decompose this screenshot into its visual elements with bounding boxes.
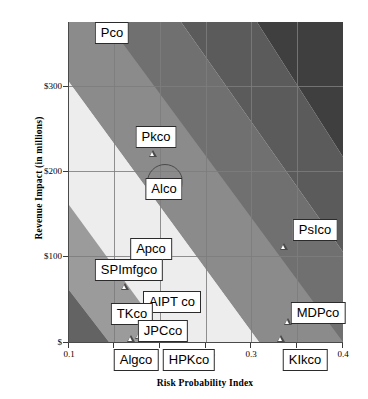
gridline-x-025 [206, 22, 207, 342]
x-axis-title: Risk Probability Index [68, 378, 342, 388]
callout-spimfgco[interactable]: SPImfgco [95, 259, 163, 281]
x-tick-label-01: 0.1 [63, 349, 74, 359]
gridlines [69, 22, 343, 342]
callout-pkco[interactable]: Pkco [136, 126, 177, 148]
scatter-chart: Revenue Impact (in millions) $300 $200 $… [0, 0, 368, 399]
y-tick-label-300: $300 [2, 81, 62, 91]
marker-spimfgco [121, 283, 129, 290]
x-tick-mark-01 [68, 343, 69, 348]
x-tick-mark-025 [205, 343, 206, 348]
callout-kikco[interactable]: KIkco [283, 349, 328, 371]
x-tick-mark-015 [113, 343, 114, 348]
callout-mdpco[interactable]: MDPco [291, 302, 346, 324]
gridline-x-035 [297, 22, 298, 342]
x-tick-label-04: 0.4 [337, 349, 348, 359]
callout-alco[interactable]: Alco [145, 178, 182, 200]
y-tick-label-200: $200 [2, 166, 62, 176]
marker-algco [127, 335, 135, 342]
gridline-x-015 [114, 22, 115, 342]
x-tick-mark-035 [296, 343, 297, 348]
y-axis-title: Revenue Impact (in millions) [34, 78, 44, 278]
y-tick-label-100: $100 [2, 251, 62, 261]
x-tick-mark-02 [159, 343, 160, 348]
callout-apco[interactable]: Apco [130, 238, 172, 260]
marker-pkco [149, 150, 157, 157]
x-tick-mark-04 [342, 343, 343, 348]
x-tick-label-03: 0.3 [245, 349, 256, 359]
callout-algco[interactable]: Algco [114, 349, 159, 371]
gridline-x-030 [251, 22, 252, 342]
callout-psico[interactable]: PsIco [293, 219, 338, 241]
callout-hpkco[interactable]: HPKco [163, 349, 215, 371]
marker-psico [280, 243, 288, 250]
x-tick-mark-03 [250, 343, 251, 348]
callout-pco[interactable]: Pco [95, 22, 129, 44]
y-tick-label-0: $ [2, 337, 62, 347]
callout-jpcco[interactable]: JPCco [138, 320, 188, 342]
marker-kikco [277, 335, 285, 342]
plot-area [68, 22, 343, 343]
